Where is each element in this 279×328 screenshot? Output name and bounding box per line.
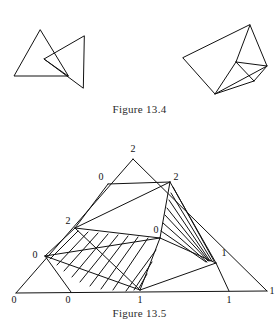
triangle-chord — [44, 59, 68, 76]
figure-13-5-drawing: 2 0 2 2 0 0 1 0 0 1 1 1 — [0, 128, 279, 306]
edge-center-to-right — [236, 62, 267, 66]
outer-quad — [183, 25, 267, 94]
edge-mid2-mid0 — [75, 228, 160, 238]
vertex-label-base-mid-left-0: 0 — [66, 294, 71, 305]
vertex-label-base-left-0: 0 — [12, 294, 17, 305]
vertex-label-base-corner-1: 1 — [270, 285, 275, 296]
outer-left-edge — [16, 159, 133, 293]
hatch-stroke — [167, 208, 209, 261]
edge-small-to-right — [254, 66, 267, 81]
vertex-label-upper-right-2: 2 — [174, 171, 179, 182]
edge-upper0-upper2 — [108, 182, 170, 184]
hatch-stroke — [171, 193, 212, 261]
figure-13-5-caption: Figure 13.5 — [0, 308, 279, 319]
figure-13-4-left-panel — [14, 30, 84, 88]
figure-13-4-caption: Figure 13.4 — [0, 104, 279, 115]
edge-upper2-mid2 — [75, 182, 170, 228]
figure-13-4-right-panel — [183, 25, 267, 94]
figure-page: Figure 13.4 — [0, 0, 279, 328]
hatch-stroke — [161, 231, 206, 262]
vertex-label-base-center-1: 1 — [138, 294, 143, 305]
vertex-label-upper-left-0: 0 — [99, 171, 104, 182]
edge-upper0-mid2 — [75, 184, 108, 228]
edge-center-to-bottom — [215, 62, 236, 94]
outer-triangle — [16, 159, 267, 293]
vertex-label-base-right-1: 1 — [227, 294, 232, 305]
vertex-label-mid-center-0: 0 — [154, 224, 159, 235]
vertex-label-right-1: 1 — [222, 247, 227, 258]
figure-13-5: 2 0 2 2 0 0 1 0 0 1 1 1 Figure 13.5 — [0, 128, 279, 328]
hatch-stroke — [50, 231, 78, 259]
vertex-label-left-0: 0 — [33, 249, 38, 260]
edge-right1-base-right — [216, 263, 229, 291]
edge-base1-right1 — [140, 263, 216, 290]
hatch-stroke — [169, 200, 210, 261]
figure-13-4-drawing — [0, 0, 279, 100]
vertex-label-apex-2: 2 — [131, 143, 136, 154]
triangle-a — [14, 30, 68, 76]
vertex-label-mid-left-2: 2 — [66, 215, 71, 226]
left-hatch-band — [50, 231, 156, 291]
edge-left0-base1 — [45, 256, 140, 290]
figure-13-4: Figure 13.4 — [0, 0, 279, 128]
triangle-b — [44, 36, 84, 88]
edge-left0-base0 — [45, 256, 71, 292]
